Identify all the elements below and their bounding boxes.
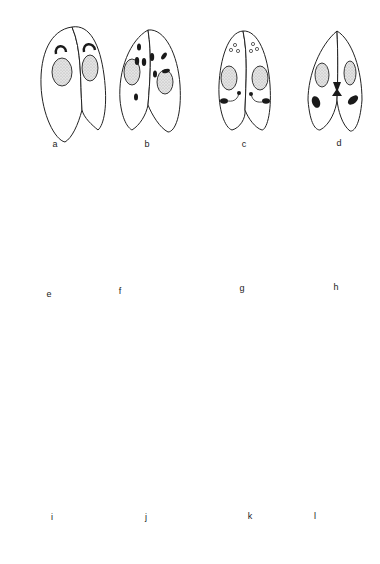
panel-c	[219, 31, 270, 130]
panel-label-a: a	[45, 139, 65, 149]
panel-label-g: g	[232, 283, 252, 293]
panel-label-d: d	[329, 138, 349, 148]
panel-label-f: f	[110, 286, 130, 296]
panel-label-e: e	[39, 289, 59, 299]
panel-label-k: k	[240, 511, 260, 521]
figure-canvas	[0, 0, 380, 564]
panel-label-c: c	[234, 139, 254, 149]
panel-label-i: i	[42, 512, 62, 522]
panel-d	[308, 31, 362, 131]
panel-label-h: h	[326, 282, 346, 292]
panel-label-l: l	[305, 511, 325, 521]
panel-label-b: b	[137, 139, 157, 149]
panel-a	[41, 27, 106, 142]
panel-b	[120, 30, 181, 132]
panel-label-j: j	[136, 512, 156, 522]
